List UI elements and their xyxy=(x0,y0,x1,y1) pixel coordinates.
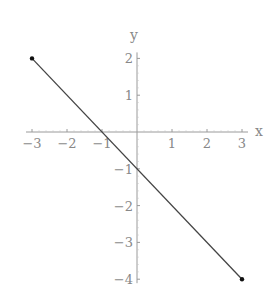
x-tick-label: 3 xyxy=(238,136,246,151)
x-tick-label: −3 xyxy=(22,136,41,151)
tick-labels: −3−2−112321−1−2−3−4 xyxy=(22,51,246,287)
y-tick-label: −4 xyxy=(114,272,133,287)
x-axis-label: x xyxy=(255,123,263,139)
y-tick-label: −3 xyxy=(114,235,133,250)
y-tick-label: −1 xyxy=(114,162,133,177)
y-tick-label: −2 xyxy=(114,199,133,214)
y-tick-label: 1 xyxy=(125,88,133,103)
x-tick-label: −2 xyxy=(57,136,76,151)
x-tick-label: 2 xyxy=(203,136,211,151)
data-point xyxy=(240,277,244,281)
y-tick-label: 2 xyxy=(125,51,133,66)
data-point xyxy=(30,56,34,60)
y-axis-label: y xyxy=(129,27,138,43)
line-chart: −3−2−112321−1−2−3−4 x y xyxy=(0,0,279,300)
x-tick-label: 1 xyxy=(168,136,176,151)
